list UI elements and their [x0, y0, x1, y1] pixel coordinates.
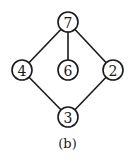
node-6: 6: [58, 60, 78, 80]
node-4: 4: [12, 60, 32, 80]
node-3: 3: [58, 107, 78, 127]
node-label: 3: [64, 110, 73, 126]
node-7: 7: [58, 12, 78, 32]
node-label: 7: [64, 15, 73, 31]
node-2: 2: [103, 60, 123, 80]
node-label: 6: [64, 63, 73, 79]
node-label: 4: [18, 63, 27, 79]
node-label: 2: [109, 63, 118, 79]
figure-caption: (b): [0, 136, 135, 151]
